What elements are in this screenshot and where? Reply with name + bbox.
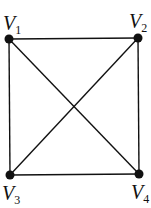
edges — [9, 38, 139, 175]
vertex-label-v1: V1 — [3, 12, 21, 37]
vertex-label-v4: V4 — [131, 181, 149, 206]
vertex-label-v2: V2 — [129, 10, 147, 35]
edge-v2-v3 — [10, 38, 138, 175]
edge-v3-v4 — [10, 174, 139, 175]
vertex-label-v3: V3 — [2, 182, 20, 207]
vertex-v4 — [135, 170, 144, 179]
graph-diagram: V1 V2 V3 V4 — [0, 0, 151, 208]
edge-v1-v2 — [9, 38, 138, 39]
vertex-v3 — [6, 171, 15, 180]
edge-v2-v4 — [138, 38, 139, 174]
vertex-v1 — [5, 35, 14, 44]
edge-v1-v3 — [9, 39, 10, 175]
